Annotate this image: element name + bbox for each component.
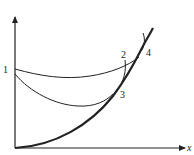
x-axis-label: x (186, 142, 192, 153)
point-label-3: 3 (120, 89, 125, 100)
bold-boundary-curve (15, 28, 153, 148)
point-label-2: 2 (121, 49, 126, 60)
upper-path-1-to-4 (15, 57, 139, 78)
point-label-1: 1 (3, 64, 8, 75)
lower-path-1-to-3 (15, 74, 113, 106)
point-label-4: 4 (146, 47, 151, 58)
diagram-canvas: 1 2 3 4 x (0, 0, 194, 155)
